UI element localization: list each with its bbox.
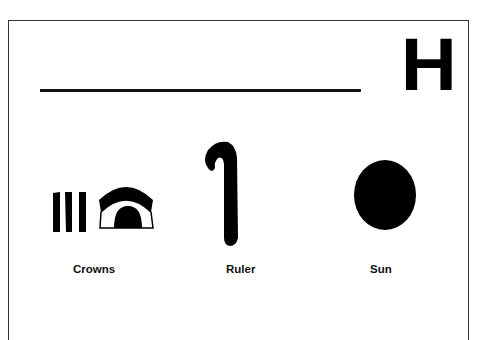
letter-heading: H [401,28,457,102]
ruler-crook-hieroglyph-icon [200,138,250,248]
crowns-hieroglyph-icon [50,178,160,236]
writing-line[interactable] [40,89,361,92]
sun-disc-hieroglyph-icon [352,158,422,234]
glyph-label-sun: Sun [370,263,392,275]
glyph-label-ruler: Ruler [226,263,255,275]
glyph-label-crowns: Crowns [73,263,115,275]
